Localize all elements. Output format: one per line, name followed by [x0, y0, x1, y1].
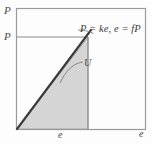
y-axis-label: P: [4, 5, 11, 16]
plot-canvas: [0, 0, 151, 144]
figure-container: P P e e P = ke, e = fP U: [0, 0, 151, 144]
curve-equation-label: P = ke, e = fP: [80, 24, 141, 35]
x-axis-tick-label: e: [58, 130, 62, 140]
strain-energy-label: U: [84, 58, 91, 68]
y-axis-tick-label: P: [4, 31, 11, 42]
x-axis-label: e: [139, 129, 143, 139]
